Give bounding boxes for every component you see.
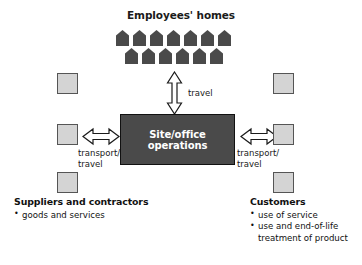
house-icon [176, 48, 189, 64]
house-icon [133, 30, 146, 46]
house-icon [184, 30, 197, 46]
house-icon [193, 48, 206, 64]
arrow-label-travel: travel [188, 88, 213, 99]
center-node-label: Site/office operations [121, 129, 234, 151]
house-icon [150, 30, 163, 46]
house-icon [159, 48, 172, 64]
list-item: use and end-of-life treatment of product [250, 221, 362, 244]
caption-suppliers-and-contractors: Suppliers and contractors goods and serv… [14, 196, 184, 221]
house-icon [218, 30, 231, 46]
gray-square-icon [273, 172, 294, 193]
process-flow-diagram: Employees' homes travel transp [0, 0, 362, 265]
gray-square-icon [57, 124, 78, 145]
house-icon [167, 30, 180, 46]
house-icon [201, 30, 214, 46]
gray-square-icon [273, 73, 294, 94]
house-icon [125, 48, 138, 64]
center-node-site-office-operations: Site/office operations [120, 114, 235, 165]
house-icon [142, 48, 155, 64]
house-row-bottom [125, 48, 223, 64]
arrow-label-transport-travel-right: transport/ travel [237, 148, 279, 169]
caption-list: goods and services [14, 210, 184, 222]
gray-square-icon [57, 172, 78, 193]
caption-list: use of service use and end-of-life treat… [250, 210, 362, 245]
double-arrow-horizontal-icon-left [82, 127, 120, 150]
caption-heading: Customers [250, 196, 362, 209]
arrow-label-transport-travel-left: transport/ travel [78, 148, 120, 169]
caption-customers: Customers use of service use and end-of-… [250, 196, 362, 244]
house-row-top [116, 30, 231, 46]
house-icon [210, 48, 223, 64]
double-arrow-vertical-icon [166, 71, 183, 119]
employees-homes-title: Employees' homes [0, 9, 362, 21]
gray-square-icon [57, 73, 78, 94]
list-item: goods and services [14, 210, 184, 222]
caption-heading: Suppliers and contractors [14, 196, 184, 209]
list-item: use of service [250, 210, 362, 222]
house-icon [116, 30, 129, 46]
gray-square-icon [273, 124, 294, 145]
